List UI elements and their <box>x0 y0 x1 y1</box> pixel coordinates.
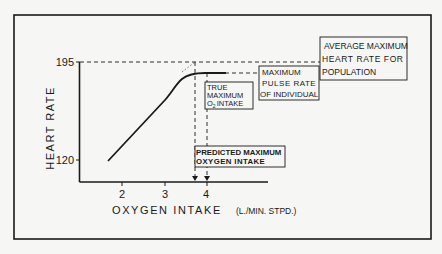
arrow-predicted-icon <box>192 176 198 181</box>
svg-text:OXYGEN INTAKE: OXYGEN INTAKE <box>196 157 265 166</box>
avg-max-hr-annotation: AVERAGE MAXIMUM HEART RATE FOR POPULATIO… <box>320 37 408 80</box>
true-max-o2-annotation: TRUE MAXIMUM O2INTAKE <box>205 82 253 109</box>
predicted-max-o2-annotation: PREDICTED MAXIMUM OXYGEN INTAKE <box>195 146 285 167</box>
svg-text:HEART RATE FOR: HEART RATE FOR <box>322 54 404 64</box>
x-tick-label-3: 3 <box>162 188 168 200</box>
svg-text:O2INTAKE: O2INTAKE <box>207 99 243 109</box>
x-tick-label-2: 2 <box>119 188 125 200</box>
svg-text:PREDICTED MAXIMUM: PREDICTED MAXIMUM <box>196 148 281 157</box>
arrow-true-icon <box>204 176 210 181</box>
svg-text:MAXIMUM: MAXIMUM <box>262 68 301 77</box>
x-tick-label-4: 4 <box>203 188 209 200</box>
extrapolation-line <box>182 62 195 72</box>
y-axis-label: HEART RATE <box>44 86 56 169</box>
oxygen-intake-heart-rate-figure: 195 120 2 3 4 HEART RATE OXYGEN INTAKE (… <box>0 0 442 254</box>
svg-text:AVERAGE MAXIMUM: AVERAGE MAXIMUM <box>324 41 408 51</box>
x-axis-label: OXYGEN INTAKE <box>112 204 222 216</box>
svg-text:PULSE RATE: PULSE RATE <box>262 79 316 88</box>
svg-text:OF INDIVIDUAL: OF INDIVIDUAL <box>260 90 319 99</box>
max-pulse-annotation: MAXIMUM PULSE RATE OF INDIVIDUAL <box>259 66 319 100</box>
y-tick-label-120: 120 <box>56 154 74 166</box>
x-axis-units: (L./MIN. STPD.) <box>236 206 297 216</box>
svg-text:POPULATION: POPULATION <box>322 67 376 77</box>
y-tick-label-195: 195 <box>56 56 74 68</box>
